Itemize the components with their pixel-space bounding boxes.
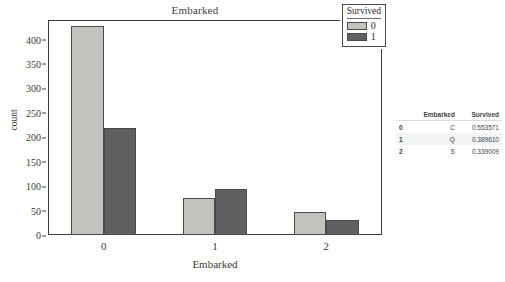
dataframe-table: Embarked Survived 0C0.5535711Q0.3896102S… (396, 108, 502, 157)
legend-swatch (347, 22, 367, 30)
legend-label: 0 (371, 21, 376, 31)
bar (104, 128, 136, 236)
table-header-survived: Survived (458, 108, 502, 121)
x-tick-label: 1 (212, 240, 218, 252)
table-header-embarked: Embarked (409, 108, 458, 121)
legend-swatch (347, 33, 367, 41)
y-tick-label: 300 (26, 83, 41, 94)
table-cell-embarked: S (409, 145, 458, 157)
legend-entry: 0 (347, 21, 381, 31)
x-tick-label: 2 (324, 240, 330, 252)
table-row: 2S0.339009 (396, 145, 502, 157)
table-row: 1Q0.389610 (396, 133, 502, 145)
y-tick-label: 50 (31, 205, 41, 216)
table-cell-survived: 0.553571 (458, 121, 502, 134)
table-body: 0C0.5535711Q0.3896102S0.339009 (396, 121, 502, 158)
table-cell-index: 2 (396, 145, 409, 157)
table-header-index (396, 108, 409, 121)
y-tick-label: 0 (36, 230, 41, 241)
bar-series-container (48, 20, 382, 235)
table-cell-index: 1 (396, 133, 409, 145)
y-tick-label: 250 (26, 107, 41, 118)
bar (71, 26, 103, 235)
bar (294, 212, 326, 235)
legend-title: Survived (347, 7, 381, 19)
y-tick-label: 100 (26, 181, 41, 192)
chart-figure: Embarked 050100150200250300350400 count … (0, 0, 390, 282)
y-tick-label: 350 (26, 58, 41, 69)
legend-entries: 01 (347, 21, 381, 42)
legend: Survived 01 (342, 4, 386, 47)
bar (215, 189, 247, 235)
y-axis-label: count (9, 100, 19, 140)
y-tick-label: 400 (26, 34, 41, 45)
table-row: 0C0.553571 (396, 121, 502, 134)
y-tick-label: 150 (26, 156, 41, 167)
y-tick-label: 200 (26, 132, 41, 143)
table-cell-survived: 0.339009 (458, 145, 502, 157)
x-tick-label: 0 (101, 240, 107, 252)
table-header-row: Embarked Survived (396, 108, 502, 121)
table-cell-survived: 0.389610 (458, 133, 502, 145)
table-cell-embarked: C (409, 121, 458, 134)
bar (183, 198, 215, 235)
legend-label: 1 (371, 32, 376, 42)
legend-entry: 1 (347, 32, 381, 42)
table-cell-embarked: Q (409, 133, 458, 145)
x-axis-label: Embarked (48, 258, 382, 270)
y-axis-ticks: 050100150200250300350400 (0, 0, 48, 282)
bar (326, 220, 358, 235)
x-axis-ticks: 012 (48, 236, 382, 256)
chart-title: Embarked (0, 4, 390, 16)
table-cell-index: 0 (396, 121, 409, 134)
